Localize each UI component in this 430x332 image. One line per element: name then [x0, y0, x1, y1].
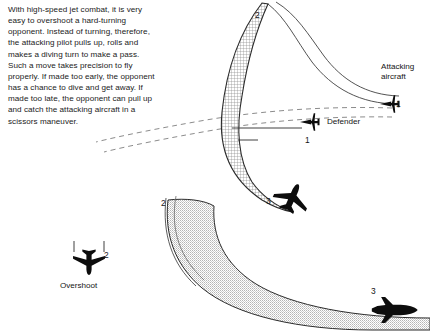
attacking-aircraft-label-line1: Attacking [381, 62, 414, 71]
marker-overshoot-point: 2 [104, 250, 109, 260]
defender-aircraft-icon [300, 113, 320, 131]
attacker-dive-ribbon [221, 3, 292, 212]
air-combat-maneuver-figure: With high-speed jet combat, it is very e… [0, 0, 430, 332]
marker-attacker-pass: 3 [266, 196, 271, 206]
marker-attacker-start: 1 [396, 99, 401, 109]
overshoot-aircraft-icon [73, 250, 105, 276]
attacking-aircraft-label-line2: aircraft [381, 72, 406, 81]
attacking-aircraft-label: Attacking aircraft [381, 62, 414, 83]
attacker-climb-path [268, 2, 399, 104]
marker-attacker-apex: 2 [255, 10, 260, 20]
reference-dashed-lines [96, 108, 392, 153]
marker-defender-turn: 2 [161, 198, 166, 208]
defender-label: Defender [327, 117, 360, 127]
marker-defender-end: 3 [371, 286, 376, 296]
marker-defender-start: 1 [305, 135, 310, 145]
attacker-banking-icon [270, 177, 315, 218]
overshoot-label: Overshoot [60, 281, 97, 291]
